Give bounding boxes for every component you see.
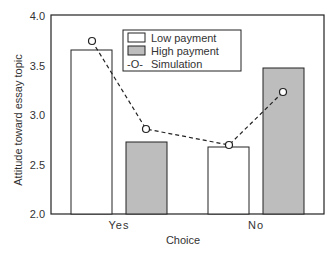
simulation-marker [143, 126, 150, 133]
x-tick-label-no: No [248, 219, 264, 231]
bar-no-low-payment [208, 147, 249, 214]
y-axis: 2.0 2.5 3.0 3.5 4.0 [30, 10, 45, 220]
bar-yes-low-payment [71, 50, 112, 214]
legend: Low payment High payment -O- Simulation [123, 30, 241, 71]
y-tick-label: 2.0 [30, 208, 45, 220]
legend-label-simulation: Simulation [151, 58, 202, 70]
legend-swatch-low-payment [128, 33, 145, 42]
y-tick-label: 3.5 [30, 60, 45, 72]
legend-label-low-payment: Low payment [151, 32, 216, 44]
legend-symbol-simulation: -O- [127, 58, 143, 70]
legend-label-high-payment: High payment [151, 45, 219, 57]
bars [71, 50, 304, 214]
y-tick-label: 4.0 [30, 10, 45, 22]
y-tick-label: 2.5 [30, 159, 45, 171]
y-axis-title: Attitude toward essay topic [12, 54, 24, 186]
simulation-marker [280, 89, 287, 96]
legend-swatch-high-payment [128, 46, 145, 55]
x-tick-label-yes: Yes [109, 219, 130, 231]
y-tick-label: 3.0 [30, 109, 45, 121]
x-axis-title: Choice [166, 234, 200, 246]
bar-yes-high-payment [126, 142, 167, 214]
chart: 2.0 2.5 3.0 3.5 4.0 Attitude toward essa… [0, 0, 334, 255]
simulation-marker [226, 142, 233, 149]
simulation-marker [89, 38, 96, 45]
